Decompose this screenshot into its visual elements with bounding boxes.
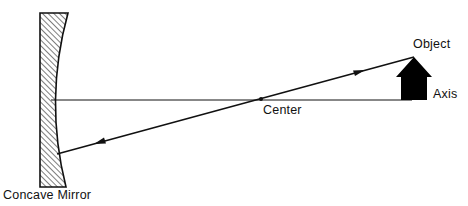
ray-diagram	[0, 0, 468, 206]
center-point	[259, 97, 263, 101]
ray-arrowhead-up	[353, 70, 365, 76]
object-label: Object	[413, 37, 450, 51]
center-label: Center	[263, 103, 302, 117]
axis-label: Axis	[433, 87, 457, 101]
object-arrow	[396, 57, 432, 100]
mirror-label: Concave Mirror	[3, 188, 91, 202]
ray-arrowhead-down	[94, 138, 106, 145]
